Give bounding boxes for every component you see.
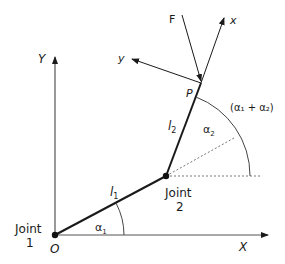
joint-2-dot [163, 173, 169, 179]
two-link-arm-diagram: Y X O Joint 1 Joint 2 l1 l2 α1 α2 (α₁ + … [0, 0, 285, 264]
local-y-label: y [117, 52, 125, 65]
link1-extension-line [166, 138, 234, 176]
force-label: F [169, 13, 175, 26]
joint-2-label-line2: 2 [176, 200, 184, 214]
origin-label: O [50, 242, 59, 256]
joint-2-label-line1: Joint [164, 186, 192, 200]
local-x-axis [201, 18, 224, 83]
local-y-axis [132, 59, 201, 83]
joint-1-label-line1: Joint [14, 222, 42, 236]
x-axis-label: X [238, 240, 248, 254]
y-axis-label: Y [38, 52, 47, 66]
angle-sum-label: (α₁ + α₂) [230, 102, 274, 113]
point-p-label: P [186, 87, 193, 100]
joint-1-dot [52, 232, 58, 238]
angle-alpha2-label: α2 [203, 123, 215, 138]
angle-arc-alpha1 [116, 203, 124, 235]
link-1-label: l1 [110, 185, 118, 201]
local-x-label: x [229, 14, 237, 27]
link-2-label: l2 [168, 119, 176, 135]
force-arrow [182, 15, 201, 81]
joint-1-label-line2: 1 [26, 236, 34, 250]
angle-alpha1-label: α1 [95, 221, 107, 236]
